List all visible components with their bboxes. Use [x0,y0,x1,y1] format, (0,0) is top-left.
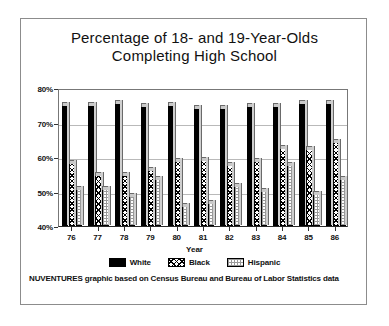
y-axis-tick-label: 50% [21,189,53,198]
y-axis-tick-mark [54,227,58,228]
bar-hispanic-84 [287,164,293,226]
x-axis-tick-mark [177,227,178,231]
x-axis-tick-label: 77 [85,233,111,242]
bar-hispanic-81 [208,202,214,226]
y-axis-tick-mark [54,124,58,125]
y-axis-tick-mark [54,158,58,159]
bar-white-77 [88,104,94,226]
bar-hispanic-78 [129,195,135,226]
bar-hispanic-85 [313,193,319,226]
x-axis-tick-mark [203,227,204,231]
legend-item-black: Black [168,258,210,267]
y-axis-tick-label: 80% [21,85,53,94]
bar-white-80 [168,104,174,226]
bar-side-shade [81,186,84,225]
bar-hispanic-86 [340,178,346,226]
bar-white-78 [115,102,121,226]
y-axis-tick-label: 60% [21,154,53,163]
bar-black-83 [254,160,260,226]
x-axis-tick-mark [308,227,309,231]
x-axis-tick-label: 83 [243,233,269,242]
bar-white-79 [141,105,147,226]
bar-white-82 [220,107,226,226]
x-axis-tick-mark [150,227,151,231]
chart-title: Percentage of 18- and 19-Year-Olds Compl… [21,29,368,65]
bar-white-85 [299,102,305,226]
legend-label-hispanic: Hispanic [248,258,281,267]
x-axis-tick-label: 85 [295,233,321,242]
bar-white-81 [194,107,200,226]
bar-black-77 [95,174,101,226]
bar-white-83 [247,105,253,226]
legend-swatch-hispanic [227,258,244,267]
y-axis-tick-label: 40% [21,223,53,232]
bar-side-shade [319,191,322,225]
legend-swatch-white [109,258,126,267]
bar-side-shade [160,176,163,225]
bar-hispanic-76 [76,188,82,226]
bar-white-76 [62,104,68,226]
bar-white-84 [273,105,279,226]
bar-black-78 [122,174,128,226]
x-axis-tick-mark [335,227,336,231]
chart-frame: Percentage of 18- and 19-Year-Olds Compl… [20,18,367,305]
chart-legend: WhiteBlackHispanic [21,258,368,267]
x-axis-tick-mark [282,227,283,231]
chart-title-line-1: Percentage of 18- and 19-Year-Olds [21,29,368,47]
bar-side-shade [108,186,111,225]
bar-hispanic-77 [102,188,108,226]
bar-side-shade [134,193,137,225]
y-axis-tick-label: 70% [21,120,53,129]
chart-footnote: NUVENTURES graphic based on Census Burea… [29,273,363,284]
y-axis-tick-mark [54,89,58,90]
bar-black-80 [175,160,181,226]
x-axis-tick-label: 78 [111,233,137,242]
chart-screenshot: Percentage of 18- and 19-Year-Olds Compl… [0,0,389,326]
bar-black-82 [227,164,233,226]
bar-side-shade [239,183,242,225]
bar-side-shade [266,188,269,225]
x-axis-tick-label: 84 [269,233,295,242]
x-axis-tick-mark [256,227,257,231]
legend-item-white: White [109,258,151,267]
bar-side-shade [213,200,216,225]
x-axis-tick-label: 79 [137,233,163,242]
bar-side-shade [345,176,348,225]
bar-hispanic-80 [182,205,188,226]
x-axis-title: Year [21,245,368,254]
bar-hispanic-82 [234,185,240,226]
bar-black-86 [333,141,339,226]
x-axis-tick-label: 76 [58,233,84,242]
x-axis-tick-label: 82 [216,233,242,242]
bar-black-81 [201,159,207,226]
bar-hispanic-83 [261,190,267,226]
bar-black-84 [280,147,286,226]
x-axis-tick-mark [124,227,125,231]
bar-black-76 [69,162,75,226]
chart-title-line-2: Completing High School [21,47,368,65]
x-axis-tick-label: 86 [322,233,348,242]
legend-label-black: Black [189,258,210,267]
x-axis-tick-mark [98,227,99,231]
x-axis-tick-mark [229,227,230,231]
x-axis-tick-label: 80 [164,233,190,242]
bar-side-shade [187,203,190,225]
legend-label-white: White [130,258,151,267]
x-axis-tick-label: 81 [190,233,216,242]
bar-black-79 [148,169,154,226]
x-axis-tick-mark [71,227,72,231]
bar-white-86 [326,102,332,226]
bar-side-shade [292,162,295,225]
legend-swatch-black [168,258,185,267]
bar-black-85 [306,148,312,226]
legend-item-hispanic: Hispanic [227,258,281,267]
bar-hispanic-79 [155,178,161,226]
y-axis-tick-mark [54,193,58,194]
plot-area [58,89,348,227]
